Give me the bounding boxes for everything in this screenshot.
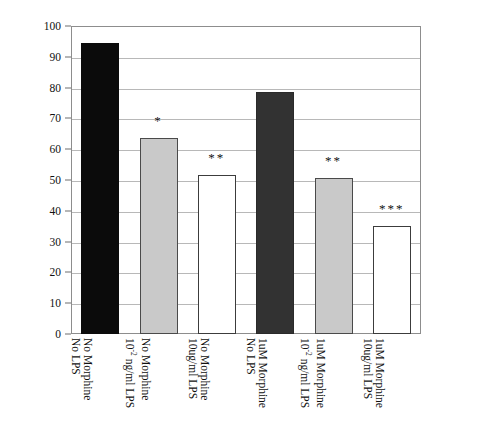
x-axis-label-line2: No LPS <box>245 338 257 408</box>
y-tick-label: 20 <box>50 266 62 278</box>
bar[interactable] <box>373 226 411 334</box>
x-axis-label: 1uM Morphine10ug/ml LPS <box>362 338 385 408</box>
significance-marker: *** <box>373 201 411 217</box>
significance-marker: * <box>140 113 178 129</box>
x-axis-label-line2: 10-2 ng/ml LPS <box>300 338 315 408</box>
x-label-slot: No Morphine10ug/ml LPS <box>188 336 246 439</box>
x-axis-label-line2: No LPS <box>70 338 82 400</box>
significance-marker: ** <box>315 153 353 169</box>
bar[interactable] <box>140 138 178 334</box>
y-tick-label: 60 <box>50 143 62 155</box>
bar-slot: ** <box>198 26 236 334</box>
y-tick-label: 90 <box>50 51 62 63</box>
x-axis-labels: No MorphineNo LPSNo Morphine10-2 ng/ml L… <box>71 336 421 439</box>
x-axis-label-line1: No Morphine <box>82 338 94 400</box>
x-axis-label: No Morphine10-2 ng/ml LPS <box>125 338 152 408</box>
x-label-slot: 1uM Morphine10-2 ng/ml LPS <box>304 336 362 439</box>
bar-chart: % Cell Viability 1009080706050403020100 … <box>0 0 489 439</box>
x-axis-label: No Morphine10ug/ml LPS <box>187 338 210 400</box>
y-tick-label: 70 <box>50 112 62 124</box>
significance-marker: ** <box>198 150 236 166</box>
x-label-slot: 1uM MorphineNo LPS <box>246 336 304 439</box>
x-axis-label-line1: No Morphine <box>140 338 152 408</box>
x-axis-label: 1uM MorphineNo LPS <box>245 338 268 408</box>
x-axis-label-line1: 1uM Morphine <box>373 338 385 408</box>
y-tick-label: 30 <box>50 236 62 248</box>
bar-slot <box>256 26 294 334</box>
x-axis-label-line2: 10-2 ng/ml LPS <box>125 338 140 408</box>
bar-slot: * <box>140 26 178 334</box>
y-tick-label: 40 <box>50 205 62 217</box>
bar-slot: *** <box>373 26 411 334</box>
bar[interactable] <box>81 43 119 334</box>
bar[interactable] <box>198 175 236 334</box>
y-tick-label: 0 <box>55 328 61 340</box>
x-axis-label-line1: No Morphine <box>198 338 210 400</box>
x-axis-label-line1: 1uM Morphine <box>257 338 269 408</box>
y-tick-label: 100 <box>44 20 61 32</box>
bar-slot <box>81 26 119 334</box>
y-tick-label: 50 <box>50 174 62 186</box>
x-axis-label-line2: 10ug/ml LPS <box>187 338 199 400</box>
y-tick-label: 10 <box>50 297 62 309</box>
x-label-slot: No MorphineNo LPS <box>71 336 129 439</box>
bar[interactable] <box>315 178 353 334</box>
y-tick-label: 80 <box>50 82 62 94</box>
x-axis-label-line1: 1uM Morphine <box>315 338 327 408</box>
x-axis-label: No MorphineNo LPS <box>70 338 93 400</box>
x-axis-label: 1uM Morphine10-2 ng/ml LPS <box>300 338 327 408</box>
x-label-slot: No Morphine10-2 ng/ml LPS <box>129 336 187 439</box>
bar[interactable] <box>256 92 294 334</box>
x-axis-label-line2: 10ug/ml LPS <box>362 338 374 408</box>
bars-layer: ******** <box>71 26 421 334</box>
x-label-slot: 1uM Morphine10ug/ml LPS <box>363 336 421 439</box>
y-axis-ticks: 1009080706050403020100 <box>0 26 71 334</box>
bar-slot: ** <box>315 26 353 334</box>
